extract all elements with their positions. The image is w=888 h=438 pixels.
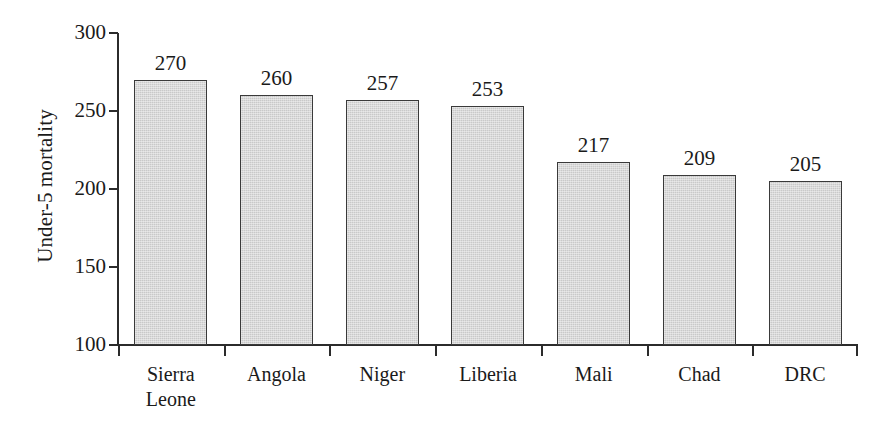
- bar[interactable]: [663, 175, 736, 345]
- x-axis-tick-mark: [118, 346, 120, 356]
- x-axis-category-label: Chad: [639, 362, 759, 387]
- bar[interactable]: [557, 162, 630, 345]
- bar-value-label: 205: [744, 154, 867, 175]
- y-axis-tick-label: 100: [54, 334, 106, 355]
- x-axis-tick-mark: [856, 346, 858, 356]
- y-axis-tick-label: 150: [54, 256, 106, 277]
- category-label-line: Niger: [322, 362, 442, 387]
- bar-value-label: 217: [532, 135, 655, 156]
- x-axis-tick-mark: [224, 346, 226, 356]
- y-axis-tick-mark: [109, 266, 118, 268]
- category-label-line: Liberia: [428, 362, 548, 387]
- x-axis-category-label: Niger: [322, 362, 442, 387]
- x-axis-category-label: SierraLeone: [111, 362, 231, 412]
- y-axis-tick-mark: [109, 32, 118, 34]
- x-axis-tick-mark: [647, 346, 649, 356]
- bar[interactable]: [769, 181, 842, 345]
- category-label-line: Sierra: [111, 362, 231, 387]
- x-axis-category-label: Mali: [534, 362, 654, 387]
- bar-value-label: 209: [638, 148, 761, 169]
- y-axis-tick-mark: [109, 110, 118, 112]
- bar[interactable]: [346, 100, 419, 345]
- category-label-line: DRC: [745, 362, 865, 387]
- x-axis-tick-mark: [329, 346, 331, 356]
- bar-value-label: 270: [109, 53, 232, 74]
- bar-value-label: 253: [426, 79, 549, 100]
- bar[interactable]: [240, 95, 313, 345]
- bar-value-label: 260: [215, 68, 338, 89]
- x-axis-tick-mark: [752, 346, 754, 356]
- x-axis-category-label: Angola: [217, 362, 337, 387]
- x-axis-tick-mark: [541, 346, 543, 356]
- y-axis-tick-mark: [109, 344, 118, 346]
- bar[interactable]: [134, 80, 207, 345]
- x-axis-tick-mark: [435, 346, 437, 356]
- y-axis-tick-label: 300: [54, 22, 106, 43]
- category-label-line: Angola: [217, 362, 337, 387]
- y-axis-tick-mark: [109, 188, 118, 190]
- y-axis-tick-label: 250: [54, 100, 106, 121]
- y-axis-tick-labels: 300250200150100: [50, 0, 106, 438]
- x-axis-category-label: DRC: [745, 362, 865, 387]
- y-axis-tick-label: 200: [54, 178, 106, 199]
- category-label-line: Mali: [534, 362, 654, 387]
- category-label-line: Leone: [111, 387, 231, 412]
- bar-chart: Under-5 mortality 300250200150100 270Sie…: [0, 0, 888, 438]
- x-axis-category-label: Liberia: [428, 362, 548, 387]
- category-label-line: Chad: [639, 362, 759, 387]
- bar[interactable]: [451, 106, 524, 345]
